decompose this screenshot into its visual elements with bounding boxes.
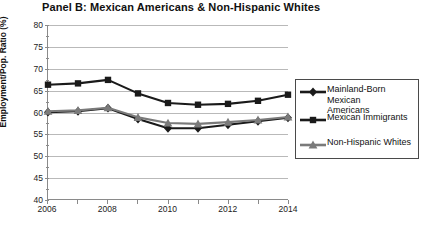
y-tick-label: 65 — [19, 86, 43, 96]
legend-label: Mexican Immigrants — [327, 112, 408, 123]
x-tick-label: 2012 — [218, 204, 237, 214]
legend-label: Mainland-Born Mexican Americans — [327, 84, 418, 116]
y-tick-label: 70 — [19, 64, 43, 74]
legend-item-mainland-born-mexican-americans: Mainland-Born Mexican Americans — [299, 84, 418, 116]
triangle-marker-icon — [299, 137, 327, 149]
chart-legend: Mainland-Born Mexican Americans Mexican … — [295, 79, 419, 159]
series-mexican-immigrants — [45, 77, 291, 108]
y-tick-label: 75 — [19, 42, 43, 52]
y-tick-label: 45 — [19, 173, 43, 183]
square-marker — [310, 117, 316, 123]
square-marker — [255, 98, 261, 104]
legend-item-non-hispanic-whites: Non-Hispanic Whites — [299, 137, 411, 149]
x-tick-label: 2008 — [98, 204, 117, 214]
square-marker — [135, 90, 141, 96]
series-layer — [48, 25, 288, 199]
y-tick-label: 50 — [19, 151, 43, 161]
diamond-marker — [309, 88, 317, 97]
chart-figure: Panel B: Mexican Americans & Non-Hispani… — [0, 0, 423, 229]
chart-title: Panel B: Mexican Americans & Non-Hispani… — [42, 1, 320, 13]
square-marker — [225, 101, 231, 107]
square-marker — [105, 77, 111, 83]
square-marker-icon — [299, 112, 327, 124]
diamond-marker-icon — [299, 84, 327, 96]
square-marker — [195, 102, 201, 108]
x-tick-mark — [198, 200, 199, 204]
square-marker — [285, 92, 291, 98]
y-axis-title: Employment/Pop. Ratio (%) — [0, 17, 8, 128]
square-marker — [45, 81, 51, 87]
series-non-hispanic-whites — [44, 103, 293, 127]
plot-area — [47, 25, 288, 200]
y-tick-label: 55 — [19, 129, 43, 139]
legend-label: Non-Hispanic Whites — [327, 137, 411, 148]
y-tick-label: 80 — [19, 20, 43, 30]
x-tick-mark — [77, 200, 78, 204]
x-tick-label: 2006 — [38, 204, 57, 214]
x-tick-mark — [137, 200, 138, 204]
x-tick-label: 2010 — [158, 204, 177, 214]
legend-item-mexican-immigrants: Mexican Immigrants — [299, 112, 408, 124]
x-tick-label: 2014 — [279, 204, 298, 214]
square-marker — [75, 80, 81, 86]
series-mainland-born-mexican-americans — [44, 104, 292, 133]
square-marker — [165, 100, 171, 106]
x-tick-mark — [258, 200, 259, 204]
y-tick-label: 60 — [19, 108, 43, 118]
